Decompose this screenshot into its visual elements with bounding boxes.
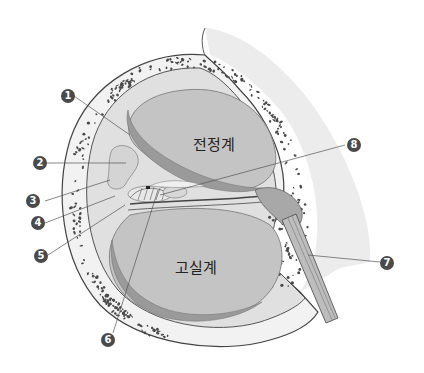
bone-dot <box>262 106 264 109</box>
bone-dot <box>291 255 293 257</box>
bone-dot <box>280 284 283 287</box>
callout-5: 5 <box>34 249 48 263</box>
bone-dot <box>287 143 289 145</box>
bone-dot <box>263 107 267 111</box>
bone-dot <box>285 242 287 244</box>
bone-dot <box>278 227 281 230</box>
bone-dot <box>268 111 271 114</box>
bone-dot <box>293 187 295 190</box>
bone-dot <box>280 140 284 143</box>
callout-8: 8 <box>347 138 361 152</box>
bone-dot <box>291 192 294 195</box>
callout-7: 7 <box>380 256 394 270</box>
cochlea-diagram <box>0 0 424 373</box>
bone-dot <box>87 121 90 124</box>
bone-dot <box>291 281 294 284</box>
bone-dot <box>278 120 283 124</box>
bone-dot <box>249 84 251 86</box>
bone-dot <box>287 250 289 252</box>
bone-dot <box>283 148 286 151</box>
bone-dot <box>293 154 297 157</box>
bone-dot <box>249 89 252 91</box>
bone-dot <box>287 276 290 279</box>
bone-dot <box>267 103 271 106</box>
callout-4: 4 <box>31 216 45 230</box>
bone-dot <box>272 119 276 123</box>
bone-dot <box>284 134 287 137</box>
bone-dot <box>257 96 260 99</box>
callout-1: 1 <box>61 89 75 103</box>
bone-dot <box>283 261 285 263</box>
bone-dot <box>297 271 300 274</box>
bone-dot <box>303 212 305 214</box>
bone-dot <box>298 268 301 271</box>
bone-dot <box>296 259 298 261</box>
bone-dot <box>268 216 271 219</box>
bone-dot <box>256 91 260 94</box>
bone-dot <box>292 275 293 276</box>
bone-dot <box>231 69 234 72</box>
callout-3: 3 <box>26 194 40 208</box>
bone-dot <box>262 100 264 102</box>
scala-vestibuli-label: 전정계 <box>193 133 235 154</box>
bone-dot <box>218 64 221 66</box>
bone-dot <box>299 184 303 189</box>
bone-dot <box>223 66 226 69</box>
bone-dot <box>295 168 298 171</box>
bone-dot <box>287 252 290 256</box>
callout-6: 6 <box>101 333 115 347</box>
bone-dot <box>82 133 85 136</box>
bone-dot <box>79 235 81 236</box>
bone-dot <box>231 75 234 79</box>
bone-dot <box>306 226 308 228</box>
bone-dot <box>272 219 275 222</box>
bone-dot <box>266 110 268 112</box>
bone-dot <box>290 139 293 141</box>
bone-dot <box>251 94 253 97</box>
scala-tympani-label: 고실계 <box>175 256 217 277</box>
callout-2: 2 <box>33 156 47 170</box>
bone-dot <box>105 295 109 297</box>
bone-dot <box>269 120 271 123</box>
bone-dot <box>240 75 242 78</box>
bone-dot <box>304 203 307 206</box>
bone-dot <box>250 85 252 88</box>
bone-dot <box>297 173 300 176</box>
bone-dot <box>287 285 289 287</box>
bone-dot <box>283 132 285 134</box>
bone-dot <box>277 128 280 130</box>
